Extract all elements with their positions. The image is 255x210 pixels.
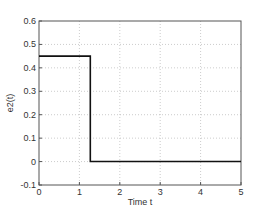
- grid-lines: [39, 21, 241, 185]
- y-tick-label: 0.1: [23, 133, 36, 143]
- x-tick-label: 1: [77, 187, 82, 197]
- y-tick-label: 0.3: [23, 86, 36, 96]
- y-tick-label: 0: [31, 157, 36, 167]
- x-axis-ticks: 012345: [36, 182, 243, 197]
- y-tick-label: 0.5: [23, 39, 36, 49]
- y-tick-label: 0.2: [23, 110, 36, 120]
- x-tick-label: 3: [158, 187, 163, 197]
- y-axis-label: e2(t): [5, 94, 15, 113]
- chart: 012345 -0.100.10.20.30.40.50.6 Time t e2…: [0, 0, 255, 210]
- y-tick-label: 0.6: [23, 16, 36, 26]
- x-tick-label: 4: [198, 187, 203, 197]
- x-tick-label: 0: [36, 187, 41, 197]
- series-line-e2: [39, 56, 241, 161]
- x-tick-label: 2: [117, 187, 122, 197]
- x-tick-label: 5: [238, 187, 243, 197]
- y-tick-label: 0.4: [23, 63, 36, 73]
- plot-area-border: [39, 21, 241, 185]
- x-axis-label: Time t: [128, 197, 153, 207]
- y-tick-label: -0.1: [20, 180, 36, 190]
